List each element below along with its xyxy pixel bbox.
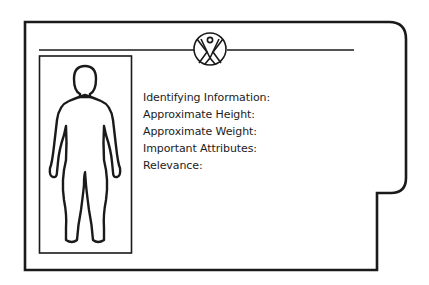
- field-list: Identifying Information: Approximate Hei…: [143, 89, 270, 174]
- field-important-attributes: Important Attributes:: [143, 140, 270, 157]
- field-relevance: Relevance:: [143, 157, 270, 174]
- field-identifying-information: Identifying Information:: [143, 89, 270, 106]
- field-approximate-height: Approximate Height:: [143, 106, 270, 123]
- field-approximate-weight: Approximate Weight:: [143, 123, 270, 140]
